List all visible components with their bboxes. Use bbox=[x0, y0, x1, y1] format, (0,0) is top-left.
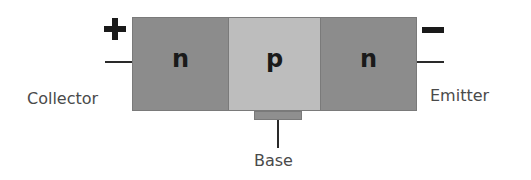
emitter-label: Emitter bbox=[430, 86, 489, 105]
base-contact-tab bbox=[254, 111, 302, 120]
base-lead bbox=[277, 120, 279, 148]
region-label: n bbox=[360, 45, 377, 73]
base-label: Base bbox=[254, 151, 293, 170]
collector-lead bbox=[105, 61, 132, 63]
collector-label: Collector bbox=[27, 89, 98, 108]
emitter-n-region: n bbox=[320, 17, 417, 111]
emitter-lead bbox=[416, 61, 444, 63]
minus-sign-icon bbox=[422, 27, 444, 33]
plus-sign-icon bbox=[104, 18, 126, 40]
collector-n-region: n bbox=[132, 17, 229, 111]
base-p-region: p bbox=[228, 17, 321, 111]
region-label: p bbox=[266, 45, 283, 73]
region-label: n bbox=[172, 45, 189, 73]
